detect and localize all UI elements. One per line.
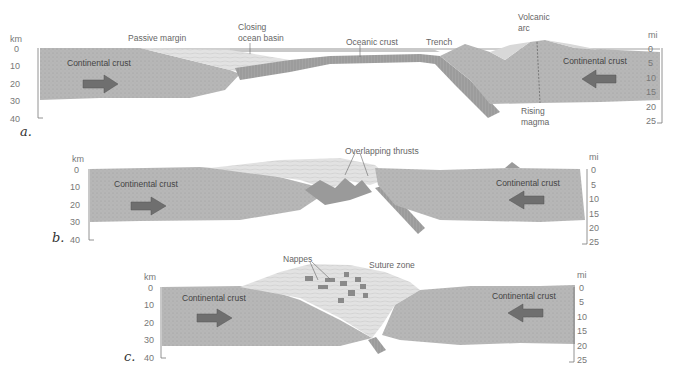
svg-text:10: 10 bbox=[70, 182, 80, 192]
panel-c: km 0 10 20 30 40 mi 0 5 10 15 20 25 Napp… bbox=[124, 254, 587, 365]
svg-text:Continental crust: Continental crust bbox=[492, 291, 556, 301]
svg-text:25: 25 bbox=[577, 355, 587, 365]
panel-label-a: a. bbox=[20, 124, 32, 139]
svg-text:25: 25 bbox=[589, 237, 599, 247]
panel-b: km 0 10 20 30 40 mi 0 5 10 15 20 25 Over… bbox=[52, 146, 599, 247]
svg-text:20: 20 bbox=[144, 318, 154, 328]
axis-unit-km: km bbox=[10, 34, 22, 44]
panel-label-b: b. bbox=[52, 230, 64, 245]
svg-text:30: 30 bbox=[70, 217, 80, 227]
svg-text:20: 20 bbox=[589, 223, 599, 233]
svg-text:40: 40 bbox=[144, 353, 154, 363]
svg-text:0: 0 bbox=[14, 44, 19, 54]
label-overlapping-thrusts: Overlapping thrusts bbox=[345, 146, 419, 156]
label-suture-zone: Suture zone bbox=[369, 260, 415, 270]
svg-text:mi: mi bbox=[589, 152, 599, 162]
svg-text:km: km bbox=[72, 154, 84, 164]
svg-text:0: 0 bbox=[74, 165, 79, 175]
svg-text:km: km bbox=[144, 272, 156, 282]
svg-text:mi: mi bbox=[577, 270, 587, 280]
svg-text:0: 0 bbox=[648, 44, 653, 54]
svg-text:40: 40 bbox=[10, 114, 20, 124]
panel-a: km 0 10 20 30 40 mi 0 5 10 15 20 25 Pass… bbox=[10, 12, 662, 139]
svg-text:Continental crust: Continental crust bbox=[496, 178, 560, 188]
label-ocean-basin: ocean basin bbox=[238, 33, 284, 43]
svg-text:5: 5 bbox=[591, 180, 596, 190]
label-trench: Trench bbox=[426, 37, 452, 47]
svg-text:0: 0 bbox=[148, 283, 153, 293]
svg-text:5: 5 bbox=[579, 297, 584, 307]
svg-text:30: 30 bbox=[10, 96, 20, 106]
label-arc: arc bbox=[518, 23, 531, 33]
axis-unit-mi: mi bbox=[648, 30, 658, 40]
svg-text:10: 10 bbox=[144, 300, 154, 310]
svg-text:15: 15 bbox=[589, 209, 599, 219]
collision-diagram: km 0 10 20 30 40 mi 0 5 10 15 20 25 Pass… bbox=[0, 0, 682, 378]
svg-text:25: 25 bbox=[646, 116, 656, 126]
svg-text:10: 10 bbox=[10, 61, 20, 71]
svg-text:10: 10 bbox=[589, 194, 599, 204]
svg-text:20: 20 bbox=[646, 102, 656, 112]
label-nappes: Nappes bbox=[283, 254, 312, 264]
svg-text:15: 15 bbox=[646, 87, 656, 97]
label-continental-crust-left: Continental crust bbox=[67, 58, 131, 68]
label-oceanic-crust: Oceanic crust bbox=[346, 37, 399, 47]
svg-text:20: 20 bbox=[577, 341, 587, 351]
svg-text:0: 0 bbox=[591, 165, 596, 175]
svg-text:Continental crust: Continental crust bbox=[182, 293, 246, 303]
label-magma: magma bbox=[521, 117, 550, 127]
label-closing: Closing bbox=[238, 22, 267, 32]
label-passive-margin: Passive margin bbox=[128, 33, 186, 43]
svg-text:10: 10 bbox=[577, 312, 587, 322]
label-volcanic: Volcanic bbox=[518, 12, 550, 22]
svg-text:20: 20 bbox=[10, 79, 20, 89]
svg-text:30: 30 bbox=[144, 335, 154, 345]
svg-text:5: 5 bbox=[648, 58, 653, 68]
svg-text:20: 20 bbox=[70, 200, 80, 210]
label-continental-crust-right: Continental crust bbox=[563, 56, 627, 66]
svg-text:40: 40 bbox=[70, 235, 80, 245]
svg-text:15: 15 bbox=[577, 326, 587, 336]
svg-text:10: 10 bbox=[646, 73, 656, 83]
svg-text:Continental crust: Continental crust bbox=[114, 179, 178, 189]
label-rising: Rising bbox=[521, 106, 545, 116]
panel-label-c: c. bbox=[124, 349, 135, 364]
svg-text:0: 0 bbox=[579, 283, 584, 293]
